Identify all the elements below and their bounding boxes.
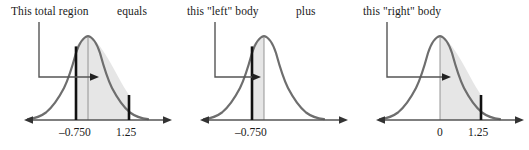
axis-arrow-right bbox=[339, 116, 348, 124]
leader-line bbox=[387, 22, 444, 77]
tick-label-zero: 0 bbox=[437, 126, 443, 138]
normal-curve-figure: This total region equals –0.75 0 1.25 th… bbox=[0, 0, 529, 150]
tick-label-neg075: –0.75 bbox=[59, 126, 85, 138]
axis-arrow-left bbox=[24, 116, 33, 124]
axis-arrow-right bbox=[515, 116, 524, 124]
tick-label-125: 1.25 bbox=[468, 126, 488, 138]
tick-label-125: 1.25 bbox=[116, 126, 136, 138]
tick-label-zero: 0 bbox=[85, 126, 91, 138]
shaded-region bbox=[76, 36, 129, 120]
axis-arrow-right bbox=[163, 116, 172, 124]
panel-left-body: this "left" body plus –0.75 0 bbox=[176, 0, 352, 150]
panel-right-body: this "right" body 0 1.25 bbox=[352, 0, 528, 150]
axis-arrow-left bbox=[376, 116, 385, 124]
tick-label-neg075: –0.75 bbox=[235, 126, 261, 138]
panel-total-region: This total region equals –0.75 0 1.25 bbox=[0, 0, 176, 150]
axis-arrow-left bbox=[200, 116, 209, 124]
tick-label-zero: 0 bbox=[261, 126, 267, 138]
